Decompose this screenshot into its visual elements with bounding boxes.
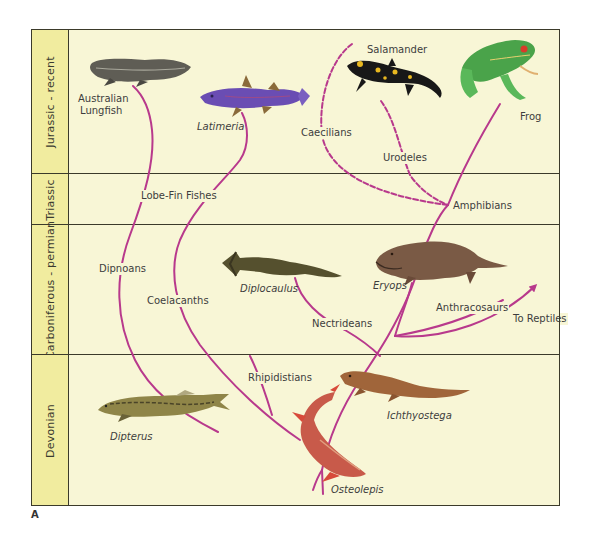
latimeria-label: Latimeria [197,121,244,133]
urodeles-label: Urodeles [382,152,428,164]
salamander-illustration [347,58,442,98]
ichthyostega-label: Ichthyostega [387,410,452,422]
to-reptiles-label: To Reptiles [512,313,568,325]
coelacanths-line [174,113,300,440]
salamander-label: Salamander [367,44,427,56]
dipnoans-line [119,86,218,432]
rhipidistians-label: Rhipidistians [247,372,313,384]
frog-line [448,104,500,205]
diplocaulus-label: Diplocaulus [240,283,298,295]
lineage-lines [119,86,535,494]
diplocaulus-illustration [222,252,342,277]
caecilians-label: Caecilians [300,127,353,139]
osteolepis-fork-left [313,470,322,490]
rhipidistians-line [250,356,272,415]
frog-label: Frog [520,111,541,123]
figure-label: A [31,509,39,520]
ichthyostega-illustration [340,371,470,402]
phylogeny-svg [0,0,589,537]
evolution-diagram: Jurassic - recent Triassic Carboniferous… [0,0,589,537]
amphibians-label: Amphibians [452,200,513,212]
latimeria-illustration [200,75,310,117]
osteolepis-illustration [292,384,366,482]
australian-lungfish-label-line2: Lungfish [80,105,122,117]
osteolepis-label: Osteolepis [331,484,384,496]
eryops-label: Eryops [373,280,407,292]
australian-lungfish-label-line1: Australian [78,93,129,105]
australian-lungfish-illustration [90,59,191,87]
nectrideans-line [295,278,380,356]
lobe-fin-fishes-label: Lobe-Fin Fishes [140,190,218,202]
dipterus-label: Dipterus [110,431,153,443]
osteolepis-stem [322,470,323,494]
frog-illustration [460,40,538,100]
coelacanths-label: Coelacanths [146,295,210,307]
dipnoans-label: Dipnoans [98,263,147,275]
dipterus-illustration [98,390,230,422]
anthracosaurs-label: Anthracosaurs [435,302,509,314]
nectrideans-label: Nectrideans [311,318,373,330]
